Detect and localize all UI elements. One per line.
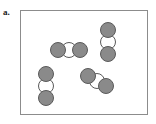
atom-shaded bbox=[98, 78, 114, 94]
atom-shaded bbox=[80, 68, 96, 84]
atom-shaded bbox=[38, 90, 54, 106]
atom-shaded bbox=[38, 66, 54, 82]
atom-shaded bbox=[72, 42, 88, 58]
panel-label: a. bbox=[3, 8, 10, 17]
atom-shaded bbox=[100, 46, 116, 62]
atom-shaded bbox=[100, 22, 116, 38]
figure-panel: a. bbox=[0, 0, 156, 124]
atom-shaded bbox=[50, 42, 66, 58]
